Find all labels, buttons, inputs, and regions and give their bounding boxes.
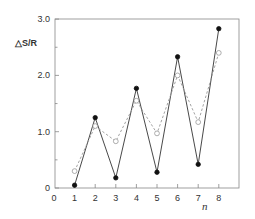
filled-data-point (155, 170, 159, 174)
open-data-point (93, 124, 98, 129)
x-axis-label: n (202, 200, 208, 212)
open-data-point (216, 50, 221, 55)
x-tick-label: 7 (196, 193, 201, 203)
x-axis: 012345678 (51, 184, 221, 203)
x-tick-label: 3 (113, 193, 118, 203)
x-tick-label: 6 (175, 193, 180, 203)
series-group (72, 26, 221, 187)
open-data-point (134, 98, 139, 103)
filled-data-point (93, 115, 97, 119)
open-data-point (72, 169, 77, 174)
x-tick-label: 2 (93, 193, 98, 203)
x-tick-label: 0 (51, 193, 56, 203)
y-tick-label: 1.0 (37, 127, 50, 137)
chart: 01.02.03.0 012345678 △S/R n (0, 0, 255, 219)
y-tick-label: 2.0 (37, 70, 50, 80)
filled-data-point (134, 86, 138, 90)
filled-data-point (72, 183, 76, 187)
y-axis: 01.02.03.0 (37, 14, 59, 193)
open-data-point (175, 73, 180, 78)
filled-data-point (175, 55, 179, 59)
x-tick-label: 1 (72, 193, 77, 203)
x-tick-label: 4 (134, 193, 139, 203)
open-data-point (113, 139, 118, 144)
filled-data-point (217, 26, 221, 30)
solid-series-line (75, 29, 219, 186)
y-tick-label: 3.0 (37, 14, 50, 24)
x-tick-label: 8 (216, 193, 221, 203)
open-data-point (155, 131, 160, 136)
dashed-series-line (75, 53, 219, 171)
filled-data-point (114, 176, 118, 180)
plot-frame (55, 19, 239, 188)
open-data-point (196, 120, 201, 125)
x-tick-label: 5 (154, 193, 159, 203)
y-tick-label: 0 (45, 183, 50, 193)
filled-data-point (196, 162, 200, 166)
y-axis-label: △S/R (14, 38, 38, 48)
